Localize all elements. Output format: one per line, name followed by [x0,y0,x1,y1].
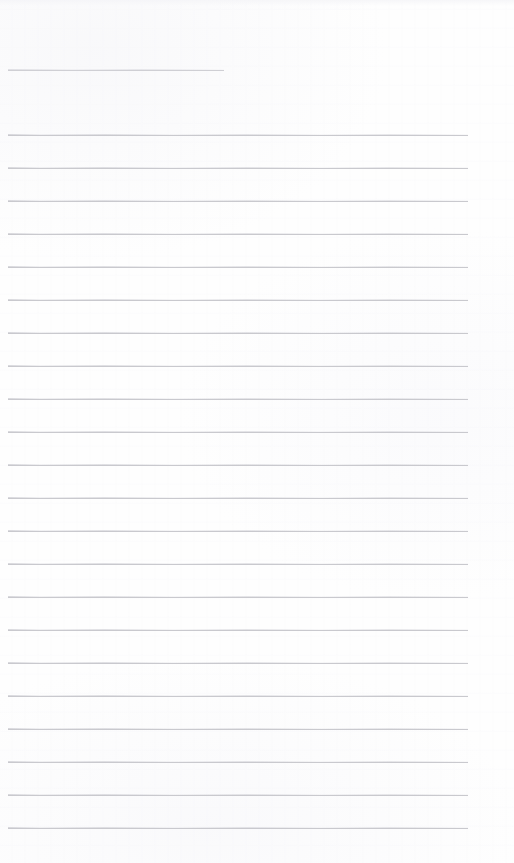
writing-rule[interactable] [8,564,468,565]
writing-rule[interactable] [8,399,468,400]
writing-rule[interactable] [8,795,468,796]
notebook-page [0,0,514,863]
writing-rule[interactable] [8,168,468,169]
writing-rule[interactable] [8,696,468,697]
writing-rule[interactable] [8,630,468,631]
writing-rule[interactable] [8,333,468,334]
writing-rule[interactable] [8,267,468,268]
writing-rule[interactable] [8,135,468,136]
writing-rule[interactable] [8,663,468,664]
title-rule[interactable] [8,70,224,71]
writing-rule[interactable] [8,729,468,730]
page-top-edge-shading [0,0,514,6]
writing-rule[interactable] [8,234,468,235]
writing-rule[interactable] [8,366,468,367]
writing-rule[interactable] [8,201,468,202]
writing-rule[interactable] [8,465,468,466]
writing-rule[interactable] [8,498,468,499]
writing-rule[interactable] [8,597,468,598]
writing-rule[interactable] [8,828,468,829]
writing-rule[interactable] [8,531,468,532]
writing-rule[interactable] [8,300,468,301]
writing-rule[interactable] [8,432,468,433]
writing-rule[interactable] [8,762,468,763]
